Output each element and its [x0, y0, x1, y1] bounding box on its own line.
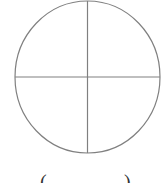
- caption-open-paren: (: [40, 172, 47, 183]
- quartered-circle-diagram: [0, 0, 164, 183]
- caption-close-paren: ): [124, 172, 131, 183]
